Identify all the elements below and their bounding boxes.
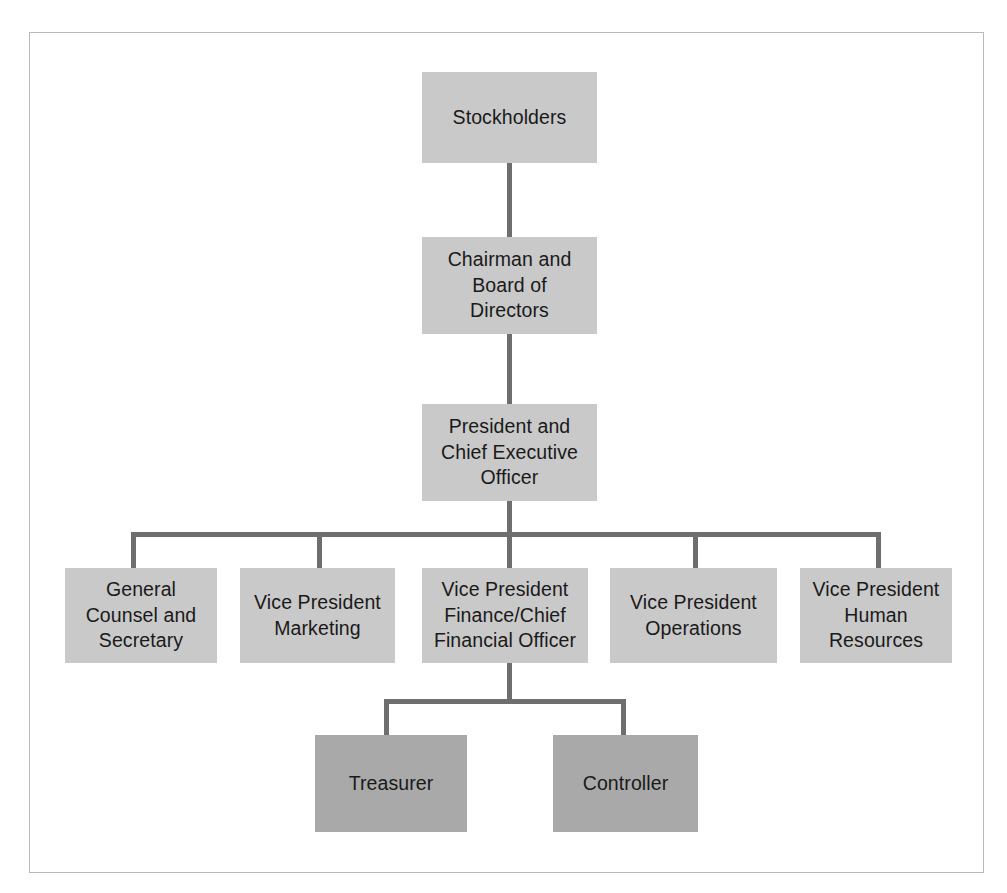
- node-chairman-and-board-of-directors[interactable]: Chairman and Board of Directors: [422, 237, 597, 334]
- connector-drop-vp-operations: [693, 532, 698, 568]
- node-vp-finance-cfo[interactable]: Vice President Finance/Chief Financial O…: [422, 568, 588, 663]
- org-chart: Stockholders Chairman and Board of Direc…: [0, 0, 1007, 893]
- node-vp-marketing[interactable]: Vice President Marketing: [240, 568, 395, 663]
- connector-cfo-stem: [507, 663, 512, 700]
- connector-drop-vp-marketing: [317, 532, 322, 568]
- node-chairman-and-board-of-directors-label: Chairman and Board of Directors: [448, 247, 572, 323]
- node-general-counsel-and-secretary-label: General Counsel and Secretary: [86, 577, 197, 653]
- node-controller-label: Controller: [583, 771, 669, 796]
- node-vp-marketing-label: Vice President Marketing: [254, 590, 381, 641]
- connector-president-stem: [507, 501, 512, 535]
- connector-vp-bus: [131, 532, 878, 537]
- connector-stockholders-to-chairman: [507, 163, 512, 237]
- node-general-counsel-and-secretary[interactable]: General Counsel and Secretary: [65, 568, 217, 663]
- node-vp-human-resources[interactable]: Vice President Human Resources: [800, 568, 952, 663]
- node-vp-operations[interactable]: Vice President Operations: [610, 568, 777, 663]
- connector-drop-general-counsel: [131, 532, 136, 568]
- node-stockholders[interactable]: Stockholders: [422, 72, 597, 163]
- node-president-and-ceo-label: President and Chief Executive Officer: [441, 414, 578, 490]
- node-vp-finance-cfo-label: Vice President Finance/Chief Financial O…: [434, 577, 576, 653]
- node-vp-operations-label: Vice President Operations: [630, 590, 757, 641]
- node-treasurer[interactable]: Treasurer: [315, 735, 467, 832]
- connector-drop-vp-finance: [507, 532, 512, 568]
- node-president-and-ceo[interactable]: President and Chief Executive Officer: [422, 404, 597, 501]
- connector-drop-vp-human-resources: [876, 532, 881, 568]
- node-controller[interactable]: Controller: [553, 735, 698, 832]
- connector-drop-controller: [621, 699, 626, 735]
- node-stockholders-label: Stockholders: [453, 105, 567, 130]
- connector-chairman-to-president: [507, 334, 512, 404]
- connector-drop-treasurer: [384, 699, 389, 735]
- node-vp-human-resources-label: Vice President Human Resources: [813, 577, 940, 653]
- node-treasurer-label: Treasurer: [349, 771, 434, 796]
- org-chart-page: Stockholders Chairman and Board of Direc…: [0, 0, 1007, 893]
- connector-finance-bus: [384, 699, 626, 704]
